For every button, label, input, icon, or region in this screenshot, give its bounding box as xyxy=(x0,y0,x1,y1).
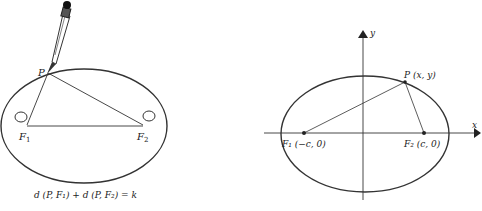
focus1-dot xyxy=(302,131,306,135)
equation-label: d (P, F₁) + d (P, F₂) = k xyxy=(34,190,137,200)
pencil-icon xyxy=(47,1,71,74)
focus2-dot xyxy=(422,131,426,135)
focus1-coord-label: F₁ (−c, 0) xyxy=(281,139,326,149)
pin-f1-icon xyxy=(15,112,27,122)
right-figure: y x P (x, y) F₁ (−c, 0) F₂ (c, 0) xyxy=(264,28,481,200)
focus2-coord-label: F₂ (c, 0) xyxy=(403,139,441,149)
left-figure: P F1 F2 d (P, F₁) + d (P, F₂) = k xyxy=(1,1,167,200)
ellipse-diagram: P F1 F2 d (P, F₁) + d (P, F₂) = k y x P … xyxy=(0,0,482,211)
string-p-f2 xyxy=(48,73,143,125)
pin-f2-icon xyxy=(143,111,155,121)
string-p-f1 xyxy=(27,73,48,125)
point-label-p: P xyxy=(37,67,45,78)
y-axis-label: y xyxy=(369,28,376,38)
segment-p-f2 xyxy=(405,82,424,133)
x-axis-label: x xyxy=(472,120,477,130)
focus1-label: F1 xyxy=(18,131,30,144)
point-p-label: P (x, y) xyxy=(403,70,436,80)
y-axis-arrow-icon xyxy=(358,30,368,38)
focus2-label: F2 xyxy=(136,131,148,144)
segment-p-f1 xyxy=(304,82,405,133)
point-p-dot xyxy=(403,80,407,84)
